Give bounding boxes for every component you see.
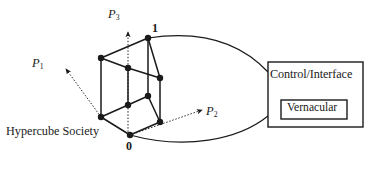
vernacular-label: Vernacular xyxy=(287,102,337,114)
edge-top-ru xyxy=(148,38,160,78)
edge-fl-bottom xyxy=(101,117,130,135)
axis-p1 xyxy=(66,69,101,117)
vertex-right-lower xyxy=(157,119,163,125)
vertex-front-left xyxy=(98,114,104,120)
vertex-label-one: 1 xyxy=(152,22,158,34)
edge-innermid-rl xyxy=(148,96,160,122)
edge-cl-innermid xyxy=(128,96,148,105)
edge-bottom-rl xyxy=(130,122,160,135)
hypercube-edges xyxy=(101,38,160,135)
control-interface-label: Control/Interface xyxy=(270,68,352,80)
vertex-center-lower xyxy=(125,102,131,108)
edge-bl-top xyxy=(101,38,148,58)
hypercube-society-diagram: P1 P2 P3 1 0 Hypercube Society Control/I… xyxy=(0,0,380,171)
edge-cu-bl xyxy=(101,58,128,68)
axis-label-p1: P1 xyxy=(32,57,44,70)
edge-ru-cu xyxy=(128,68,160,78)
axis-label-p3: P3 xyxy=(108,8,120,21)
vertex-back-left xyxy=(98,55,104,61)
axis-p2 xyxy=(130,110,202,135)
horn-lower-curve xyxy=(130,116,268,142)
axis-label-p2: P2 xyxy=(206,105,218,118)
vertex-inner-mid xyxy=(145,93,151,99)
hypercube-vertices xyxy=(98,35,163,138)
axis-p1-line xyxy=(66,69,101,117)
edge-fl-cl xyxy=(101,105,128,117)
axis-p2-line xyxy=(130,110,202,135)
vertex-label-zero: 0 xyxy=(126,140,132,152)
horn-upper-curve xyxy=(148,36,268,72)
vertex-center-upper xyxy=(125,65,131,71)
diagram-canvas xyxy=(0,0,380,171)
vertex-right-upper xyxy=(157,75,163,81)
hypercube-society-label: Hypercube Society xyxy=(6,125,99,137)
